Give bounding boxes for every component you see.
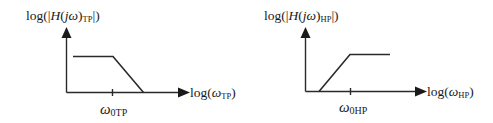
highpass-x-axis-arrow-icon [415,87,427,97]
label-subscript: HP [321,14,332,24]
label-text: ) [231,85,236,100]
label-text: |) [331,8,338,23]
highpass-y-axis-label: log(|H(jω)HP|) [264,9,339,24]
label-text: log(| [264,8,288,23]
label-subscript: HP [458,90,469,100]
label-text: log( [190,85,212,100]
label-text: H [50,8,60,23]
label-subscript: 0HP [350,105,368,116]
omega-symbol: ω [306,8,316,23]
omega-symbol: ω [100,101,111,117]
label-text: H [288,8,298,23]
label-text: log( [427,84,449,99]
highpass-plot [301,27,428,97]
highpass-response-curve [319,55,390,92]
lowpass-x-axis-arrow-icon [178,88,190,98]
omega-symbol: ω [68,8,78,23]
omega-symbol: ω [339,99,350,115]
lowpass-x-axis-label: log(ωTP) [190,86,236,101]
highpass-x-axis-label: log(ωHP) [427,85,474,100]
label-text: ) [469,84,474,99]
lowpass-response-curve [73,57,144,93]
highpass-corner-frequency-label: ω0HP [339,100,367,116]
label-subscript: 0TP [111,107,128,118]
lowpass-y-axis-arrow-icon [62,27,72,38]
label-subscript: TP [83,14,93,24]
highpass-y-axis-arrow-icon [301,27,311,38]
lowpass-plot [62,27,191,98]
lowpass-corner-frequency-label: ω0TP [100,102,127,118]
omega-symbol: ω [212,85,222,100]
label-subscript: TP [221,91,231,101]
label-text: |) [92,8,99,23]
omega-symbol: ω [449,84,459,99]
label-text: log(| [26,8,50,23]
lowpass-y-axis-label: log(|H(jω)TP|) [26,9,100,24]
